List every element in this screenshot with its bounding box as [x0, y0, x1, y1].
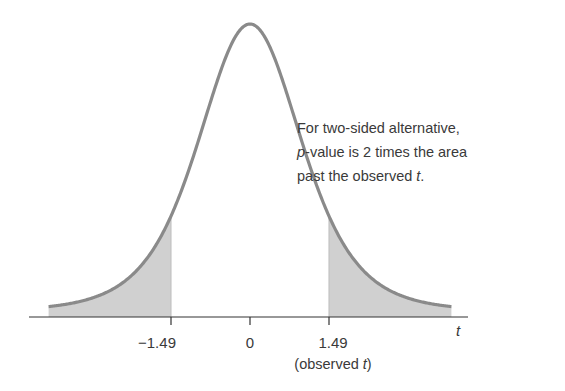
annotation-line-3-suffix: . [420, 168, 424, 184]
tick-label-neg-1-49: −1.49 [138, 334, 176, 351]
right-tail-shaded-area [329, 216, 451, 317]
p-value-annotation: For two-sided alternative, p-value is 2 … [297, 116, 467, 188]
tick-label-pos-1-49: 1.49 [318, 334, 347, 351]
p-symbol: p [297, 144, 305, 160]
annotation-line-1: For two-sided alternative, [297, 116, 467, 140]
annotation-line-2: p-value is 2 times the area [297, 140, 467, 164]
annotation-line-3-prefix: past the observed [297, 168, 416, 184]
annotation-line-3: past the observed t. [297, 164, 467, 188]
observed-t-label: (observed t) [294, 356, 371, 372]
x-axis-variable-label: t [456, 322, 460, 339]
observed-label-prefix: (observed [294, 356, 363, 372]
annotation-line-2-rest: -value is 2 times the area [305, 144, 467, 160]
t-distribution-chart [0, 0, 565, 391]
observed-label-suffix: ) [367, 356, 372, 372]
tick-label-zero: 0 [246, 334, 254, 351]
left-tail-shaded-area [49, 216, 171, 317]
